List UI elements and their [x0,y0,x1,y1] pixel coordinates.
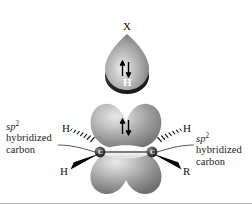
orbital-diagram-figure: X H C C H H H R sp2 hybridized carbon sp… [0,0,252,204]
label-carbon-left: C [98,149,103,157]
label-h-atom-top: H [123,76,132,88]
label-h-upper-right: H [183,122,191,134]
annotation-left-line1: sp2 [6,121,19,132]
label-x-atom: X [123,20,131,32]
pi-orbital-upper-lobe [91,104,162,150]
leader-line-right [157,145,194,152]
annotation-right-line3: carbon [196,156,225,167]
label-h-lower-left: H [60,165,68,177]
annotation-left-line3: carbon [6,144,35,155]
label-h-upper-left: H [62,122,70,134]
figure-bottom-rule [0,203,252,204]
hashed-wedge-bond-upper-left [71,129,95,142]
annotation-left-sp2-hybridized-carbon: sp2 hybridized carbon [6,119,52,156]
leader-line-left [58,145,95,152]
label-r-lower-right: R [183,165,190,177]
annotation-left-line2: hybridized [6,132,52,143]
label-carbon-right: C [150,149,155,157]
annotation-right-sp2-hybridized-carbon: sp2 hybridized carbon [196,131,242,168]
annotation-right-line1: sp2 [196,133,209,144]
hashed-wedge-bond-upper-right [158,129,182,142]
annotation-right-line2: hybridized [196,144,242,155]
